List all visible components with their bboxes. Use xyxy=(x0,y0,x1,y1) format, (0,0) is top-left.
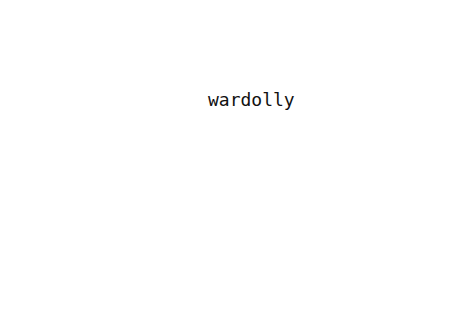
centered-word: wardolly xyxy=(208,88,295,112)
